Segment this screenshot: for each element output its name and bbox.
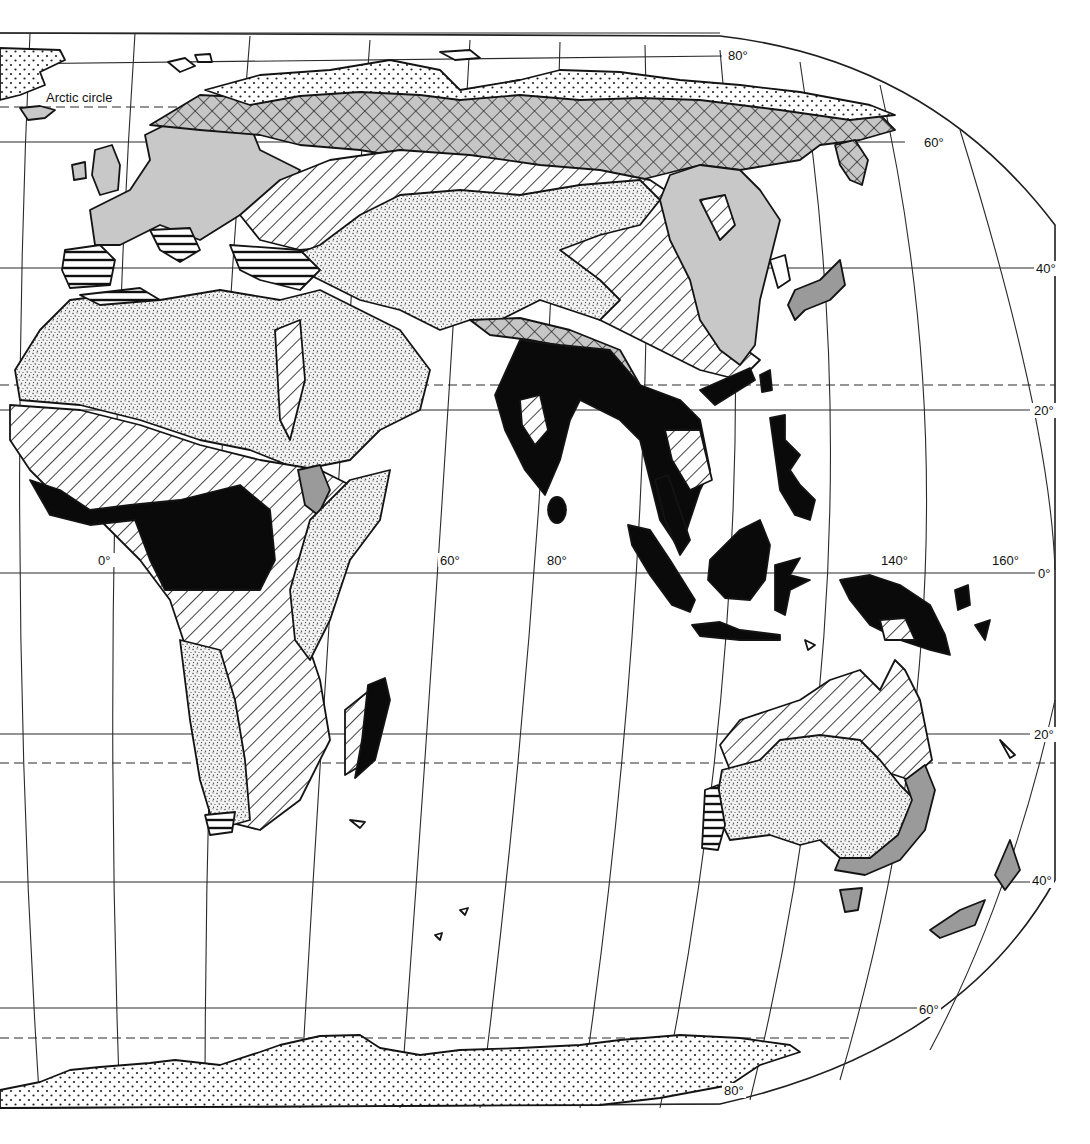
lat-label-80s: 80° [724,1083,744,1098]
lat-label-80n: 80° [728,48,748,63]
lat-label-20n: 20° [1034,403,1054,418]
region-tasmania [840,888,862,912]
land-regions [0,48,1020,1108]
region-bismarck [955,585,990,640]
lon-label-0: 0° [98,553,110,568]
region-japan [788,260,845,320]
region-philippines [770,415,815,520]
region-korea [770,255,790,288]
lon-label-140: 140° [881,553,908,568]
region-borneo [708,520,770,600]
region-antarctica [0,1035,800,1108]
lon-label-160: 160° [992,553,1019,568]
region-java [692,622,780,640]
lat-label-20s: 20° [1034,727,1054,742]
region-iceland [20,106,55,120]
region-sulawesi [775,558,810,615]
region-new-guinea [840,575,950,655]
lat-label-40n: 40° [1036,261,1056,276]
world-map: Arctic circle 0° 60° 80° 140° 160° 80° 6… [0,0,1090,1144]
lat-label-60s: 60° [919,1002,939,1017]
region-sri-lanka [548,497,566,523]
region-cape [205,812,235,835]
arctic-circle-label: Arctic circle [46,90,112,105]
region-kamchatka [835,140,868,185]
lon-label-80: 80° [547,553,567,568]
region-new-zealand [930,840,1020,938]
lat-label-40s: 40° [1032,873,1052,888]
lat-label-60n: 60° [924,135,944,150]
lat-label-0: 0° [1038,566,1050,581]
region-taiwan [760,370,772,392]
region-britain [72,145,120,195]
lon-label-60: 60° [440,553,460,568]
